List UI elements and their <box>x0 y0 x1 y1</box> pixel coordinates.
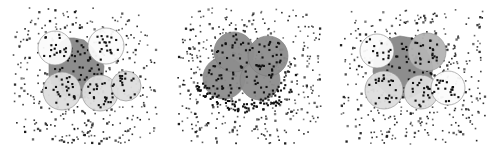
noise-point <box>24 28 26 30</box>
noise-point <box>238 99 240 101</box>
noise-point <box>388 117 390 119</box>
noise-point <box>414 136 416 138</box>
noise-point <box>92 7 94 9</box>
noise-point <box>64 26 66 28</box>
cluster-point <box>112 96 114 98</box>
noise-point <box>140 137 142 139</box>
cluster-point <box>107 101 109 103</box>
noise-point <box>479 16 481 18</box>
cluster-point <box>103 103 105 105</box>
arc-point <box>251 103 253 105</box>
noise-point <box>274 110 276 112</box>
noise-point <box>298 94 300 96</box>
noise-point <box>445 33 447 35</box>
noise-point <box>303 42 305 44</box>
noise-point <box>92 21 94 23</box>
noise-point <box>195 72 197 74</box>
noise-point <box>139 119 141 121</box>
noise-point <box>72 124 74 126</box>
arc-point <box>255 105 257 107</box>
noise-point <box>455 9 457 11</box>
cluster-point <box>420 45 422 47</box>
noise-point <box>301 108 303 110</box>
noise-point <box>472 43 474 45</box>
noise-point <box>84 142 86 144</box>
noise-point <box>294 64 296 66</box>
cluster-point <box>255 83 257 85</box>
noise-point <box>284 142 286 144</box>
noise-point <box>143 102 145 104</box>
noise-point <box>20 41 22 43</box>
arc-point <box>273 102 275 104</box>
noise-point <box>38 33 40 35</box>
cluster-point <box>59 50 61 52</box>
noise-point <box>289 15 291 17</box>
noise-point <box>54 125 56 127</box>
cluster-point <box>110 36 112 38</box>
noise-point <box>412 112 414 114</box>
cluster-point <box>419 105 421 107</box>
cluster-point <box>268 63 270 65</box>
noise-point <box>94 113 96 115</box>
noise-point <box>33 96 35 98</box>
noise-point <box>180 93 182 95</box>
noise-point <box>377 110 379 112</box>
cluster-point <box>131 79 133 81</box>
noise-point <box>197 82 199 84</box>
cluster-point <box>277 42 279 44</box>
noise-point <box>118 141 120 143</box>
noise-point <box>484 96 486 98</box>
cluster-circle-e3 <box>365 71 403 109</box>
noise-point <box>91 142 93 144</box>
noise-point <box>148 119 150 121</box>
noise-point <box>458 131 460 133</box>
noise-point <box>284 71 286 73</box>
cluster-point <box>375 82 377 84</box>
cluster-circle-e2 <box>408 33 446 71</box>
arc-point <box>231 100 233 102</box>
noise-point <box>28 30 30 32</box>
noise-point <box>252 99 254 101</box>
noise-point <box>410 123 412 125</box>
noise-point <box>426 116 428 118</box>
cluster-point <box>59 95 61 97</box>
cluster-point <box>221 44 223 46</box>
noise-point <box>384 118 386 120</box>
cluster-point <box>254 91 256 93</box>
cluster-point <box>134 93 136 95</box>
noise-point <box>394 116 396 118</box>
noise-point <box>230 10 232 12</box>
panel-middle <box>164 0 328 155</box>
noise-point <box>442 130 444 132</box>
figure-root <box>0 0 494 155</box>
noise-point <box>188 60 190 62</box>
cluster-point <box>422 101 424 103</box>
noise-point <box>344 38 346 40</box>
noise-point <box>470 120 472 122</box>
noise-point <box>187 53 189 55</box>
arc-point <box>233 103 235 105</box>
noise-point <box>298 26 300 28</box>
noise-point <box>443 69 445 71</box>
noise-point <box>462 104 464 106</box>
noise-point <box>274 31 276 33</box>
cluster-point <box>221 77 223 79</box>
cluster-point <box>110 101 112 103</box>
noise-point <box>193 72 195 74</box>
noise-point <box>396 122 398 124</box>
noise-point <box>60 28 62 30</box>
cluster-point <box>415 62 417 64</box>
noise-point <box>359 124 361 126</box>
noise-point <box>292 9 294 11</box>
noise-point <box>62 13 64 15</box>
cluster-point <box>208 72 210 74</box>
cluster-point <box>122 84 124 86</box>
noise-point <box>302 49 304 51</box>
cluster-point <box>124 78 126 80</box>
noise-point <box>307 35 309 37</box>
noise-point <box>145 78 147 80</box>
noise-point <box>469 89 471 91</box>
cluster-point <box>423 87 425 89</box>
cluster-point <box>89 56 91 58</box>
noise-point <box>358 65 360 67</box>
